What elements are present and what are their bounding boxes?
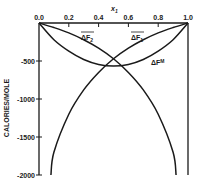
chart: 0.00.20.40.60.81.0 -500-1000-1500-2000 x… bbox=[0, 0, 201, 191]
y-tick-label: -1500 bbox=[17, 134, 35, 141]
svg-text:ΔF1: ΔF1 bbox=[131, 34, 143, 43]
y-ticks: -500-1000-1500-2000 bbox=[17, 58, 42, 179]
y-axis-title: CALORIES/MOLE bbox=[3, 79, 10, 138]
x-ticks: 0.00.20.40.60.81.0 bbox=[34, 14, 193, 27]
y-tick-label: -1000 bbox=[17, 96, 35, 103]
curve-dF1-partial bbox=[51, 23, 188, 175]
y-tick-label: -500 bbox=[21, 58, 35, 65]
y-tick-label: -2000 bbox=[17, 172, 35, 179]
x-axis-title: x1 bbox=[110, 5, 118, 14]
label-dF1: ΔF1 bbox=[131, 32, 144, 43]
label-dFM: ΔFM bbox=[151, 58, 164, 67]
x-tick-label: 0.8 bbox=[153, 14, 163, 21]
x-tick-label: 1.0 bbox=[183, 14, 193, 21]
svg-text:ΔFM: ΔFM bbox=[151, 58, 164, 67]
curves bbox=[39, 23, 188, 175]
curve-dF2-partial bbox=[39, 23, 176, 175]
label-dF2: ΔF2 bbox=[81, 32, 94, 43]
x-tick-label: 0.6 bbox=[124, 14, 134, 21]
x-tick-label: 0.0 bbox=[34, 14, 44, 21]
x-tick-label: 0.4 bbox=[94, 14, 104, 21]
x-tick-label: 0.2 bbox=[64, 14, 74, 21]
